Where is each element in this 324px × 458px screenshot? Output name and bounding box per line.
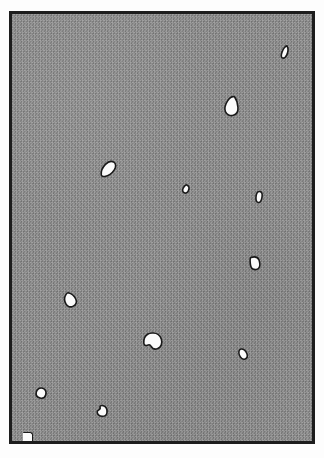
blob-lower-left-round [35, 387, 47, 399]
figure-root: Scanned halftone photographic plate: an … [0, 0, 324, 458]
blob-right-capsule [255, 191, 262, 203]
blob-centre-speck [182, 184, 191, 194]
blob-left-cone [61, 291, 78, 309]
blob-upper-right-pear [224, 96, 240, 117]
blob-layer [12, 14, 312, 441]
image-plate[interactable] [9, 11, 315, 444]
blob-centre-large-notched [144, 333, 162, 349]
blob-right-rounded-rect [250, 256, 261, 270]
blob-upper-left-spindle [98, 159, 119, 179]
blob-bottom-left-notched [97, 406, 107, 417]
corner-nick-bottom-left [23, 432, 33, 441]
blob-right-lower-oval [237, 347, 249, 360]
blob-top-right-sliver [280, 45, 289, 59]
